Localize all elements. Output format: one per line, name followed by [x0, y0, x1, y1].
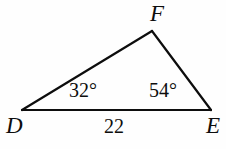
side-length-label-de: 22 [104, 116, 124, 136]
vertex-label-d: D [6, 114, 23, 137]
vertex-label-e: E [206, 114, 220, 137]
geometry-figure: D F E 32° 54° 22 [0, 0, 226, 149]
angle-label-d: 32° [69, 80, 97, 100]
vertex-label-f: F [150, 2, 164, 25]
angle-label-e: 54° [149, 80, 177, 100]
